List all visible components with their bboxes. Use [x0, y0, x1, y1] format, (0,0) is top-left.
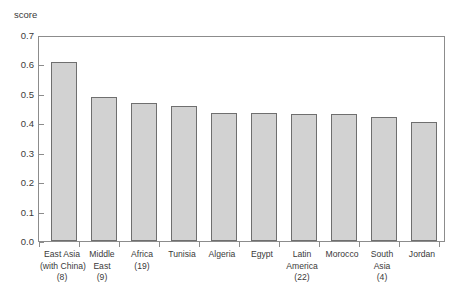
y-axis-tick-label: 0.6 — [21, 59, 34, 70]
x-axis-category-label-line: (9) — [80, 272, 124, 284]
x-axis-tick-mark — [39, 242, 40, 247]
bar[interactable] — [251, 113, 277, 241]
x-axis-category-label: SouthAsia(4) — [360, 249, 404, 284]
x-axis-category-label: Morocco — [320, 249, 364, 261]
bar[interactable] — [131, 103, 157, 241]
y-axis-tick-label: 0.7 — [21, 30, 34, 41]
bar-slot — [404, 36, 444, 241]
x-axis-category-label: Jordan — [400, 249, 444, 261]
x-axis-tick-mark — [359, 242, 360, 247]
x-axis-category-label: Tunisia — [160, 249, 204, 261]
x-axis-category-label-line: Algeria — [200, 249, 244, 261]
x-axis-category-label-line: (with China) — [40, 261, 84, 273]
x-axis-category-label-line: (8) — [40, 272, 84, 284]
y-axis-tick-label: 0.1 — [21, 207, 34, 218]
x-axis-tick-mark — [439, 242, 440, 247]
x-axis-tick-mark — [239, 242, 240, 247]
y-axis-tick-label: 0.0 — [21, 236, 34, 247]
x-axis-category-label-line: East Asia — [40, 249, 84, 261]
x-axis-labels: East Asia(with China)(8)MiddleEast(9)Afr… — [39, 249, 444, 299]
bar[interactable] — [291, 114, 317, 241]
x-axis-category-label-line: Africa — [120, 249, 164, 261]
x-axis-category-label-line: East — [80, 261, 124, 273]
bar-slot — [284, 36, 324, 241]
y-axis-title: score — [14, 9, 37, 20]
x-axis-category-label-line: Tunisia — [160, 249, 204, 261]
x-axis-category-label-line: Asia — [360, 261, 404, 273]
bar[interactable] — [411, 122, 437, 241]
x-axis-tick-mark — [399, 242, 400, 247]
x-axis-category-label-line: (22) — [280, 272, 324, 284]
bar-slot — [204, 36, 244, 241]
bar-slot — [44, 36, 84, 241]
x-axis-tick-mark — [79, 242, 80, 247]
bar-slot — [364, 36, 404, 241]
bar-slot — [164, 36, 204, 241]
x-axis-category-label-line: Middle — [80, 249, 124, 261]
x-axis-tick-mark — [119, 242, 120, 247]
x-axis-tick-mark — [319, 242, 320, 247]
x-axis-tick-mark — [159, 242, 160, 247]
x-axis-tick-mark — [199, 242, 200, 247]
x-axis-category-label: East Asia(with China)(8) — [40, 249, 84, 284]
bar-slot — [124, 36, 164, 241]
x-axis-tick-mark — [279, 242, 280, 247]
x-axis-category-label-line: South — [360, 249, 404, 261]
bar[interactable] — [211, 113, 237, 241]
bar[interactable] — [51, 62, 77, 242]
x-axis-category-label: LatinAmerica(22) — [280, 249, 324, 284]
x-axis-category-label-line: (19) — [120, 261, 164, 273]
x-axis-category-label: MiddleEast(9) — [80, 249, 124, 284]
x-axis-category-label-line: (4) — [360, 272, 404, 284]
bar[interactable] — [371, 117, 397, 241]
x-axis-category-label-line: Jordan — [400, 249, 444, 261]
x-axis-category-label-line: Latin — [280, 249, 324, 261]
bar[interactable] — [331, 114, 357, 241]
bar-slot — [84, 36, 124, 241]
x-axis-category-label: Egypt — [240, 249, 284, 261]
x-axis-category-label: Africa(19) — [120, 249, 164, 272]
bar[interactable] — [171, 106, 197, 241]
x-axis-category-label-line: Morocco — [320, 249, 364, 261]
y-axis-tick-label: 0.4 — [21, 118, 34, 129]
y-axis-tick-label: 0.5 — [21, 89, 34, 100]
y-axis-tick-label: 0.3 — [21, 148, 34, 159]
x-axis-category-label: Algeria — [200, 249, 244, 261]
bar-slot — [324, 36, 364, 241]
bars-layer — [39, 36, 444, 241]
x-axis-category-label-line: Egypt — [240, 249, 284, 261]
bar[interactable] — [91, 97, 117, 241]
bar-slot — [244, 36, 284, 241]
y-axis-tick-label: 0.2 — [21, 177, 34, 188]
x-axis-category-label-line: America — [280, 261, 324, 273]
